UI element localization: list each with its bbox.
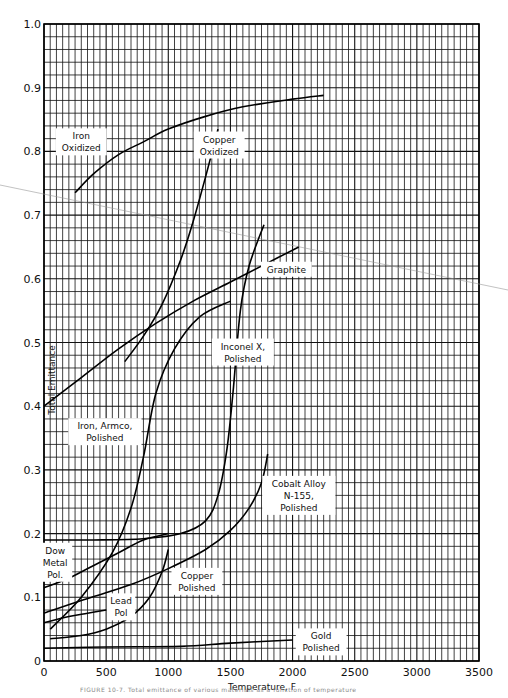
series-label: LeadPol — [107, 593, 135, 620]
series-labels: IronOxidizedCopperOxidizedGraphiteIncone… — [38, 128, 346, 655]
series-line — [44, 225, 264, 540]
series-label: GoldPolished — [296, 628, 347, 655]
x-tick-label: 1000 — [154, 666, 182, 679]
y-tick-label: 0.2 — [24, 528, 42, 541]
y-tick-label: 0.7 — [24, 209, 42, 222]
series-label: DowMetalPol. — [38, 543, 72, 582]
y-tick-label: 0.6 — [24, 273, 42, 286]
svg-text:Polished: Polished — [303, 643, 340, 653]
chart-series — [44, 95, 324, 648]
figure-caption: FIGURE 10-7. Total emittance of various … — [80, 686, 500, 693]
series-label: Inconel X,Polished — [212, 339, 274, 366]
series-label: Graphite — [261, 262, 312, 277]
svg-text:Pol: Pol — [114, 608, 127, 618]
svg-text:Pol.: Pol. — [47, 570, 63, 580]
svg-text:Graphite: Graphite — [267, 265, 307, 275]
x-tick-label: 3500 — [465, 666, 493, 679]
svg-text:Iron: Iron — [73, 131, 90, 141]
y-tick-label: 1.0 — [24, 18, 42, 31]
x-tick-label: 500 — [96, 666, 117, 679]
svg-text:Dow: Dow — [45, 546, 65, 556]
series-label: Cobalt AlloyN-155,Polished — [262, 476, 335, 515]
svg-text:Iron, Armco,: Iron, Armco, — [77, 421, 132, 431]
series-label: Iron, Armco,Polished — [68, 418, 141, 445]
y-tick-label: 0.8 — [24, 145, 42, 158]
x-tick-label: 2000 — [279, 666, 307, 679]
series-line — [44, 247, 299, 406]
y-axis-label: Total Emittance — [47, 345, 57, 416]
series-label: CopperOxidized — [194, 132, 245, 159]
x-tick-label: 0 — [41, 666, 48, 679]
svg-text:Gold: Gold — [311, 631, 332, 641]
svg-text:Polished: Polished — [224, 354, 261, 364]
svg-text:Polished: Polished — [178, 583, 215, 593]
svg-text:Polished: Polished — [86, 433, 123, 443]
y-tick-label: 0.4 — [24, 400, 42, 413]
x-tick-label: 3000 — [403, 666, 431, 679]
svg-text:Copper: Copper — [181, 571, 214, 581]
scan-artifact-line — [0, 185, 508, 290]
svg-text:Oxidized: Oxidized — [200, 147, 239, 157]
x-axis-ticks: 0500100015002000250030003500 — [41, 666, 494, 679]
svg-text:Copper: Copper — [203, 135, 236, 145]
svg-text:Metal: Metal — [43, 558, 68, 568]
series-label: CopperPolished — [171, 568, 222, 595]
svg-text:Polished: Polished — [280, 503, 317, 513]
svg-text:Cobalt Alloy: Cobalt Alloy — [272, 479, 327, 489]
series-label: IronOxidized — [56, 128, 107, 155]
y-tick-label: 0.5 — [24, 337, 42, 350]
y-tick-label: 0.3 — [24, 464, 42, 477]
svg-text:Inconel X,: Inconel X, — [221, 342, 265, 352]
x-tick-label: 1500 — [216, 666, 244, 679]
svg-text:N-155,: N-155, — [284, 491, 314, 501]
x-tick-label: 2500 — [341, 666, 369, 679]
y-tick-label: 0.9 — [24, 82, 42, 95]
svg-text:Lead: Lead — [110, 596, 132, 606]
emittance-chart: IronOxidizedCopperOxidizedGraphiteIncone… — [0, 0, 508, 698]
y-tick-label: 0.1 — [24, 591, 42, 604]
svg-text:Oxidized: Oxidized — [62, 143, 101, 153]
